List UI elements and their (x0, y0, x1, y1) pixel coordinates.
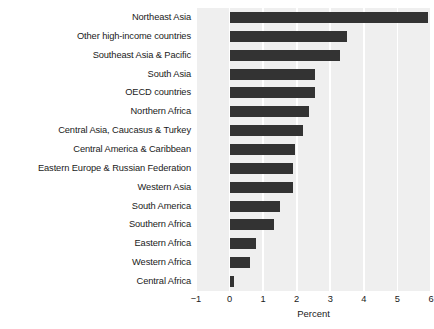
x-tick-label: 3 (328, 293, 333, 305)
x-tick-label: 1 (261, 293, 266, 305)
category-label: Eastern Africa (0, 238, 191, 249)
category-label: Northern Africa (0, 106, 191, 117)
bar (230, 219, 274, 230)
gridline (430, 8, 431, 291)
category-label: Southern Africa (0, 219, 191, 230)
gridline (363, 8, 365, 291)
x-tick-label: 4 (361, 293, 366, 305)
category-label: Southeast Asia & Pacific (0, 50, 191, 61)
value-axis-tick-labels: −10123456 (196, 293, 431, 307)
x-tick-label: 5 (395, 293, 400, 305)
bar (230, 182, 294, 193)
category-label: Central America & Caribbean (0, 144, 191, 155)
bar (230, 69, 316, 80)
x-tick-label: 2 (294, 293, 299, 305)
category-label: Other high-income countries (0, 31, 191, 42)
bar (230, 125, 304, 136)
category-label: Western Asia (0, 182, 191, 193)
bar (230, 50, 341, 61)
category-label: Central Asia, Caucasus & Turkey (0, 125, 191, 136)
x-tick-label: 6 (428, 293, 433, 305)
gridline (196, 8, 197, 291)
bar (230, 163, 294, 174)
category-label: South Asia (0, 69, 191, 80)
category-label: Eastern Europe & Russian Federation (0, 163, 191, 174)
category-label: Western Africa (0, 257, 191, 268)
bar (230, 106, 310, 117)
x-axis-title: Percent (196, 308, 431, 320)
category-label: Central Africa (0, 276, 191, 287)
bar (230, 144, 295, 155)
bar (230, 238, 257, 249)
category-axis-labels: Northeast AsiaOther high-income countrie… (0, 8, 191, 291)
gridline (397, 8, 399, 291)
category-label: Northeast Asia (0, 12, 191, 23)
bar (230, 257, 250, 268)
bar (230, 31, 348, 42)
bar (230, 201, 280, 212)
bar (230, 87, 316, 98)
category-label: OECD countries (0, 87, 191, 98)
bar (230, 276, 234, 287)
bar (230, 12, 428, 23)
x-tick-label: −1 (191, 293, 202, 305)
plot-area (196, 8, 431, 291)
category-label: South America (0, 201, 191, 212)
x-tick-label: 0 (227, 293, 232, 305)
